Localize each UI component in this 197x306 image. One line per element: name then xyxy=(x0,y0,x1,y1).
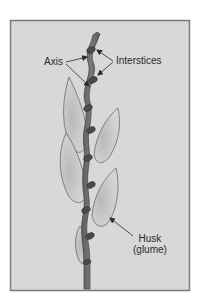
label-husk-glume: Husk (glume) xyxy=(133,233,167,255)
grass-spikelet-diagram: Axis Interstices Husk (glume) xyxy=(0,0,197,306)
label-interstices: Interstices xyxy=(116,55,162,66)
label-husk-line2: (glume) xyxy=(133,244,167,255)
diagram-canvas xyxy=(0,0,197,306)
label-husk-line1: Husk xyxy=(133,233,167,244)
label-axis: Axis xyxy=(44,56,63,67)
